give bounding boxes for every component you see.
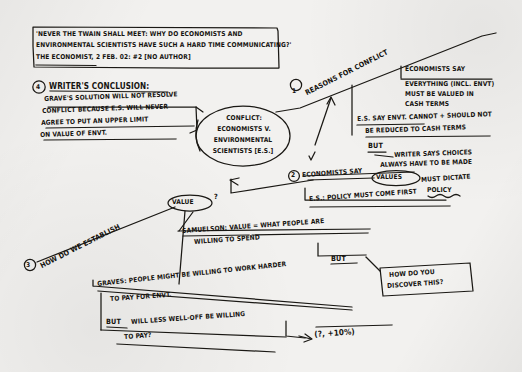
underline-economist (36, 65, 96, 66)
arrow-reasons-up (315, 98, 331, 145)
source-line-3: THE ECONOMIST, 2 FEB. 02: #2 [NO AUTHOR] (36, 54, 191, 62)
values-policy-circled: VALUES (376, 174, 402, 182)
marker-conclusion: 4 (36, 84, 40, 92)
economists-cash-line-2: EVERYTHING (INCL. ENVT) (405, 81, 494, 89)
source-line-2: ENVIRONMENTAL SCIENTISTS HAVE SUCH A HAR… (36, 42, 292, 50)
establish-value-circled: VALUE (172, 199, 194, 207)
arrow-to-center (231, 179, 313, 193)
es-reply-but: BUT (368, 142, 383, 150)
center-node-line-1: CONFLICT: (206, 115, 282, 123)
marker-reasons: 1 (292, 88, 296, 96)
establish-value-post: ? (214, 193, 218, 201)
source-line-1: 'NEVER THE TWAIN SHALL MEET: WHY DO ECON… (36, 31, 243, 39)
graves-but: BUT (106, 318, 121, 326)
connector-but-writer (375, 155, 393, 157)
conclusion-heading: WRITER'S CONCLUSION: (49, 82, 149, 91)
underline-but-3 (107, 327, 127, 328)
arrow-reasons-head (327, 97, 335, 105)
marker-establish-value: 3 (26, 262, 30, 270)
underline-willing-pay (117, 344, 275, 352)
center-node-line-3: ENVIRONMENTAL (200, 137, 286, 145)
squiggle-policy (428, 195, 460, 198)
values-policy-post-2: POLICY (427, 187, 452, 195)
underline-value-equals (252, 233, 368, 235)
center-node-line-4: SCIENTISTS [E.S.] (200, 148, 286, 156)
economists-cash-line-1: ECONOMISTS SAY (405, 66, 465, 74)
connector-discover (366, 257, 380, 271)
marker-values: 2 (291, 172, 295, 180)
underline-conclusion-limit (44, 139, 176, 140)
economists-cash-line-4: CASH TERMS (405, 101, 449, 109)
underline-cash-terms (366, 136, 490, 137)
underline-es-policy (310, 206, 450, 207)
center-node-line-2: ECONOMISTS V. (204, 126, 284, 134)
samuelson-but: BUT (331, 255, 346, 263)
economists-cash-line-3: MUST BE VALUED IN (405, 91, 474, 99)
paper-sheet: 'NEVER THE TWAIN SHALL MEET: WHY DO ECON… (0, 0, 522, 372)
arrow-reasons-down (309, 152, 315, 160)
connector-to-annotation (286, 321, 305, 338)
